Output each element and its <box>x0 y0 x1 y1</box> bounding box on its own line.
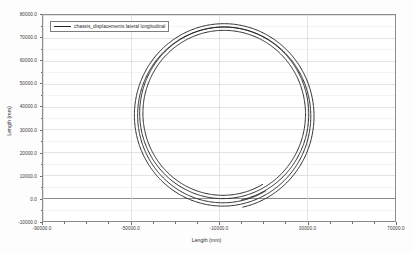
x-tick-label: -50000.0 <box>121 226 140 231</box>
tick-mark <box>352 222 353 224</box>
tick-mark <box>308 222 309 225</box>
y-tick-label: 80000.0 <box>0 12 37 17</box>
series-path <box>134 24 314 208</box>
legend-entry-label: chassis_displacements lateral longitudin… <box>74 24 165 29</box>
y-tick-label: 60000.0 <box>0 58 37 63</box>
series-path <box>140 27 309 200</box>
plot-canvas <box>43 15 395 221</box>
tick-mark <box>175 222 176 224</box>
chart-container: -10000.00.010000.020000.030000.040000.05… <box>0 0 413 253</box>
x-axis-title: Length (mm) <box>0 237 413 243</box>
plot-area[interactable] <box>42 14 396 222</box>
y-tick-label: -10000.0 <box>0 220 37 225</box>
tick-mark <box>197 222 198 224</box>
tick-mark <box>396 222 397 225</box>
tick-mark <box>263 222 264 224</box>
x-tick-label: -10000.0 <box>210 226 229 231</box>
y-tick-label: 10000.0 <box>0 173 37 178</box>
legend-line-swatch <box>54 26 71 27</box>
tick-mark <box>219 222 220 225</box>
tick-mark <box>86 222 87 224</box>
tick-mark <box>241 222 242 224</box>
y-tick-label: 50000.0 <box>0 81 37 86</box>
tick-mark <box>285 222 286 224</box>
series-lines <box>134 24 314 208</box>
tick-mark <box>153 222 154 224</box>
tick-mark <box>42 222 43 225</box>
x-tick-label: 70000.0 <box>387 226 404 231</box>
tick-mark <box>374 222 375 224</box>
y-tick-label: 70000.0 <box>0 35 37 40</box>
grid-lines <box>43 15 395 221</box>
x-tick-label: 30000.0 <box>299 226 316 231</box>
y-tick-label: 0.0 <box>0 196 37 201</box>
tick-mark <box>330 222 331 224</box>
tick-mark <box>108 222 109 224</box>
x-tick-label: -90000.0 <box>33 226 52 231</box>
tick-mark <box>131 222 132 225</box>
chart-legend[interactable]: chassis_displacements lateral longitudin… <box>50 21 169 32</box>
y-axis-title: Length (mm) <box>6 91 12 151</box>
tick-mark <box>64 222 65 224</box>
